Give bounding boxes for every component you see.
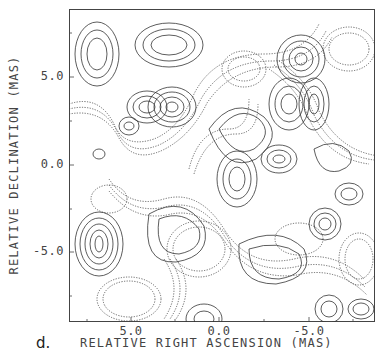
dotted-contours — [69, 24, 375, 321]
y-tick-label: 0.0 — [41, 157, 64, 171]
y-tick-label: 5.0 — [41, 69, 64, 83]
panel-label: d. — [36, 334, 50, 352]
solid-contours — [75, 22, 374, 322]
y-tick-label: -5.0 — [33, 244, 64, 258]
x-axis-label: RELATIVE RIGHT ASCENSION (MAS) — [80, 336, 333, 350]
y-axis-label: RELATIVE DECLINATION (MAS) — [7, 55, 21, 274]
contour-plot-area — [69, 9, 375, 322]
contour-map — [69, 9, 375, 322]
plot-frame — [70, 10, 375, 322]
